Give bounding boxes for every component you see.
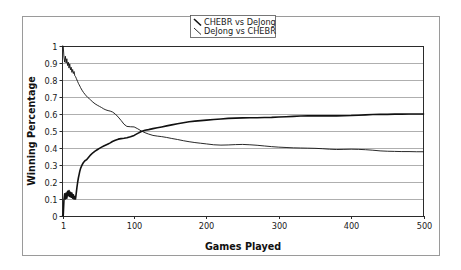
y-tick-label-2: 0.2: [44, 178, 57, 188]
x-tick-label-5: 500: [417, 221, 433, 231]
x-tick-label-0: 1: [61, 221, 66, 231]
y-tick-label-9: 0.9: [44, 59, 57, 69]
y-tick-label-7: 0.7: [44, 93, 57, 103]
x-axis-title: Games Played: [205, 241, 281, 252]
y-tick-label-4: 0.4: [44, 144, 57, 154]
x-tick-label-3: 300: [272, 221, 288, 231]
y-tick-label-0: 0: [52, 212, 57, 222]
chart-container: 00.10.20.30.40.50.60.70.80.91 1100200300…: [0, 0, 461, 270]
y-tick-label-1: 0.1: [44, 195, 57, 205]
y-tick-label-10: 1: [52, 42, 57, 52]
y-axis-title: Winning Percentage: [26, 76, 37, 186]
legend-label-series-1: DeJong vs CHEBR: [204, 26, 276, 36]
y-tick-label-3: 0.3: [44, 161, 57, 171]
y-tick-label-5: 0.5: [44, 127, 57, 137]
y-tick-label-8: 0.8: [44, 76, 57, 86]
x-tick-label-4: 400: [344, 221, 360, 231]
chart-legend[interactable]: CHEBR vs DeJong DeJong vs CHEBR: [191, 16, 277, 38]
chart-background: [0, 0, 461, 270]
x-tick-label-1: 100: [127, 221, 143, 231]
x-tick-label-2: 200: [199, 221, 215, 231]
y-tick-label-6: 0.6: [44, 110, 57, 120]
winning-percentage-line-chart: 00.10.20.30.40.50.60.70.80.91 1100200300…: [0, 0, 461, 270]
